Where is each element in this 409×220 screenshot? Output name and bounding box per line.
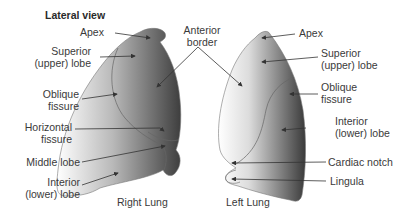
label-left-oblique-line2: fissure [321, 93, 357, 105]
label-right-oblique: Oblique fissure [43, 88, 79, 112]
label-left-cardiac-notch: Cardiac notch [328, 156, 393, 168]
label-left-oblique: Oblique fissure [321, 81, 357, 105]
caption-right-lung: Right Lung [117, 196, 168, 208]
left-lung [219, 31, 306, 201]
label-right-oblique-line2: fissure [43, 100, 79, 112]
label-right-superior-line2: (upper) lobe [34, 57, 91, 69]
label-left-inferior-line1: Interior [335, 115, 390, 127]
label-right-inferior-line1: Interior [25, 176, 80, 188]
label-right-inferior-line2: (lower) lobe [25, 188, 80, 200]
caption-left-lung: Left Lung [226, 196, 270, 208]
label-left-superior-line2: (upper) lobe [321, 59, 378, 71]
label-left-inferior-line2: (lower) lobe [335, 127, 390, 139]
label-right-superior-line1: Superior [34, 45, 91, 57]
label-anterior-line1: Anterior [178, 24, 226, 36]
label-right-horizontal-line1: Horizontal [25, 121, 72, 133]
label-right-middle: Middle lobe [26, 156, 80, 168]
label-left-inferior: Interior (lower) lobe [335, 115, 390, 139]
label-right-horizontal: Horizontal fissure [25, 121, 72, 145]
label-anterior-line2: border [178, 36, 226, 48]
label-right-oblique-line1: Oblique [43, 88, 79, 100]
diagram-title: Lateral view [45, 9, 105, 21]
label-left-superior: Superior (upper) lobe [321, 47, 378, 71]
label-left-superior-line1: Superior [321, 47, 378, 59]
label-left-lingula: Lingula [330, 175, 364, 187]
label-right-superior: Superior (upper) lobe [34, 45, 91, 69]
label-left-oblique-line1: Oblique [321, 81, 357, 93]
label-right-inferior: Interior (lower) lobe [25, 176, 80, 200]
label-anterior-border: Anterior border [178, 24, 226, 48]
label-right-horizontal-line2: fissure [25, 133, 72, 145]
label-right-apex: Apex [80, 26, 104, 38]
label-left-apex: Apex [299, 27, 323, 39]
